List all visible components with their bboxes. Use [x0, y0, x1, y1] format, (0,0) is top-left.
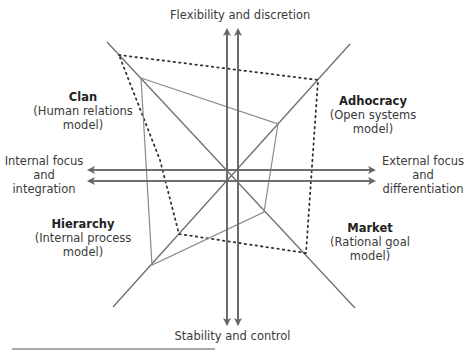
axis-label-left: Internal focus and integration — [4, 154, 84, 196]
axis-label-bottom-text: Stability and control — [170, 329, 295, 343]
quadrant-name-adhocracy: Adhocracy — [318, 94, 428, 108]
diagonal-ne-sw — [113, 44, 350, 307]
axis-label-right-line: differentiation — [378, 182, 465, 196]
solid-profile — [141, 78, 278, 265]
quadrant-name-hierarchy: Hierarchy — [28, 217, 138, 231]
axis-label-right: External focus and differentiation — [378, 154, 465, 196]
diagonal-nw-se — [107, 42, 355, 308]
axis-label-top: Flexibility and discretion — [170, 8, 295, 22]
quadrant-label-hierarchy: Hierarchy (Internal process model) — [28, 217, 138, 259]
axis-label-left-line: and — [4, 168, 84, 182]
quadrant-label-clan: Clan (Human relations model) — [28, 90, 138, 132]
quadrant-name-clan: Clan — [28, 90, 138, 104]
axis-label-left-line: integration — [4, 182, 84, 196]
quadrant-sub-hierarchy: (Internal process — [28, 231, 138, 245]
axis-label-top-text: Flexibility and discretion — [170, 8, 295, 22]
quadrant-sub-market: (Rational goal — [320, 235, 420, 249]
axis-label-left-line: Internal focus — [4, 154, 84, 168]
quadrant-sub-market: model) — [320, 249, 420, 263]
quadrant-sub-hierarchy: model) — [28, 245, 138, 259]
axis-label-right-line: External focus — [378, 154, 465, 168]
quadrant-sub-adhocracy: (Open systems — [318, 108, 428, 122]
quadrant-sub-clan: (Human relations — [28, 104, 138, 118]
dotted-profile — [119, 55, 318, 253]
axis-label-bottom: Stability and control — [170, 329, 295, 343]
quadrant-sub-clan: model) — [28, 118, 138, 132]
quadrant-name-market: Market — [320, 221, 420, 235]
quadrant-label-adhocracy: Adhocracy (Open systems model) — [318, 94, 428, 136]
axis-label-right-line: and — [378, 168, 465, 182]
quadrant-sub-adhocracy: model) — [318, 122, 428, 136]
quadrant-label-market: Market (Rational goal model) — [320, 221, 420, 263]
